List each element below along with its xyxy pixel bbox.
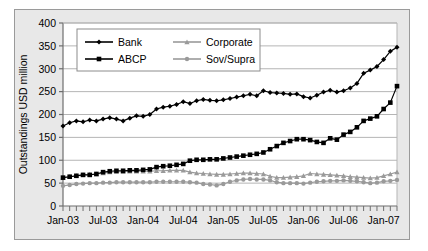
series-marker <box>361 180 365 184</box>
x-tick-labels: Jan-03Jul-03Jan-04Jul-04Jan-05Jul-05Jan-… <box>47 214 400 226</box>
series-marker <box>154 180 158 184</box>
series-marker <box>248 152 253 157</box>
chart-legend[interactable]: BankCorporateABCPSov/Supra <box>77 29 260 71</box>
series-marker <box>61 184 65 188</box>
legend-swatch-marker <box>97 57 102 62</box>
legend-label: Sov/Supra <box>206 53 255 65</box>
series-marker <box>174 180 178 184</box>
series-marker <box>255 177 259 181</box>
y-tick-label-50: 50 <box>44 177 56 189</box>
series-marker <box>201 157 206 162</box>
series-marker <box>381 107 386 112</box>
series-marker <box>121 180 125 184</box>
series-marker <box>321 141 326 146</box>
series-marker <box>148 167 153 172</box>
series-marker <box>335 137 340 142</box>
series-marker <box>234 178 238 182</box>
series-marker <box>101 170 106 175</box>
legend-swatch-marker <box>185 57 189 61</box>
series-marker <box>221 156 226 161</box>
series-marker <box>268 147 273 152</box>
y-tick-label-0: 0 <box>50 200 56 212</box>
series-marker <box>114 168 119 173</box>
series-marker <box>161 180 165 184</box>
chart-frame: 050100150200250300350400 Outstandings US… <box>14 9 410 240</box>
x-axis <box>63 206 397 211</box>
y-axis-title: Outstandings USD million <box>17 55 29 175</box>
legend-label: ABCP <box>118 53 147 65</box>
series-marker <box>355 125 360 130</box>
series-marker <box>375 180 379 184</box>
series-marker <box>107 169 112 174</box>
x-tick-label-Jul-03: Jul-03 <box>89 214 118 226</box>
series-marker <box>141 180 145 184</box>
series-marker <box>74 174 79 179</box>
series-marker <box>141 168 146 173</box>
series-marker <box>161 164 166 169</box>
series-marker <box>368 116 373 121</box>
series-marker <box>341 178 345 182</box>
y-tick-label-200: 200 <box>38 108 56 120</box>
series-marker <box>301 181 305 185</box>
x-tick-label-Jan-04: Jan-04 <box>127 214 159 226</box>
series-marker <box>261 177 265 181</box>
series-marker <box>348 179 352 183</box>
series-marker <box>61 175 66 180</box>
x-tick-label-Jan-06: Jan-06 <box>287 214 319 226</box>
x-tick-label-Jul-05: Jul-05 <box>249 214 278 226</box>
y-tick-label-350: 350 <box>38 40 56 52</box>
series-marker <box>154 165 159 170</box>
x-tick-label-Jul-06: Jul-06 <box>329 214 358 226</box>
series-marker <box>261 150 266 155</box>
series-marker <box>388 179 392 183</box>
legend-label: Corporate <box>206 36 253 48</box>
y-tick-label-300: 300 <box>38 63 56 75</box>
series-marker <box>81 173 86 178</box>
series-marker <box>121 168 126 173</box>
series-marker <box>308 138 313 143</box>
x-tick-label-Jul-04: Jul-04 <box>169 214 198 226</box>
series-marker <box>128 168 133 173</box>
series-marker <box>181 180 185 184</box>
x-tick-label-Jan-03: Jan-03 <box>47 214 79 226</box>
series-marker <box>335 179 339 183</box>
series-marker <box>348 130 353 135</box>
series-marker <box>368 181 372 185</box>
series-marker <box>221 182 225 186</box>
x-tick-label-Jan-07: Jan-07 <box>368 214 400 226</box>
series-marker <box>241 177 245 181</box>
series-marker <box>328 179 332 183</box>
series-marker <box>194 157 199 162</box>
series-marker <box>268 178 272 182</box>
line-chart-svg[interactable]: 050100150200250300350400 Outstandings US… <box>15 10 411 241</box>
series-marker <box>214 183 218 187</box>
series-marker <box>295 181 299 185</box>
series-marker <box>194 180 198 184</box>
series-marker <box>301 137 306 142</box>
series-marker <box>101 180 105 184</box>
y-tick-label-150: 150 <box>38 131 56 143</box>
series-marker <box>108 180 112 184</box>
series-marker <box>375 114 380 119</box>
series-marker <box>134 180 138 184</box>
series-marker <box>315 180 319 184</box>
series-marker <box>208 157 213 162</box>
y-axis-title-text: Outstandings USD million <box>17 55 29 175</box>
series-marker <box>174 163 179 168</box>
series-marker <box>308 180 312 184</box>
series-marker <box>248 177 252 181</box>
series-marker <box>288 181 292 185</box>
x-tick-label-Jan-05: Jan-05 <box>207 214 239 226</box>
series-marker <box>188 158 193 163</box>
series-marker <box>355 179 359 183</box>
series-marker <box>254 152 259 157</box>
series-marker <box>74 182 78 186</box>
series-marker <box>188 180 192 184</box>
y-tick-label-100: 100 <box>38 154 56 166</box>
series-marker <box>281 141 286 146</box>
series-marker <box>241 153 246 158</box>
series-marker <box>341 132 346 137</box>
series-marker <box>94 181 98 185</box>
series-marker <box>134 168 139 173</box>
chart-figure: 050100150200250300350400 Outstandings US… <box>0 0 428 251</box>
